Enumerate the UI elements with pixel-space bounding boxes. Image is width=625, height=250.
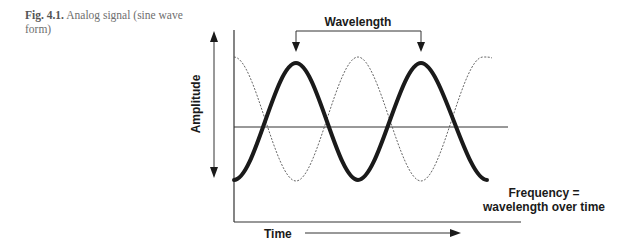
amplitude-arrow-icon (210, 31, 218, 178)
frequency-label-line1: Frequency = (508, 186, 579, 200)
wavelength-label: Wavelength (325, 15, 392, 29)
frequency-label-line2: wavelength over time (482, 200, 605, 214)
sine-wave-diagram: Amplitude Wavelength Time Frequency = wa… (0, 0, 625, 250)
amplitude-label: Amplitude (189, 74, 203, 133)
time-arrow-icon (305, 229, 461, 237)
time-label: Time (264, 227, 292, 241)
wavelength-bracket-icon (292, 31, 425, 52)
solid-sine-wave (234, 63, 487, 180)
